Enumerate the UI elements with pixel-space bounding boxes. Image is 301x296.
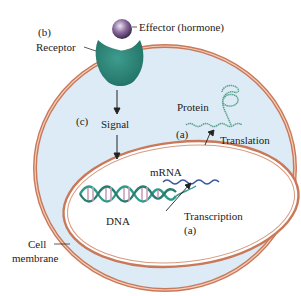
signal-label: Signal xyxy=(101,118,129,130)
effector-label: Effector (hormone) xyxy=(139,21,224,33)
protein-label: Protein xyxy=(177,101,209,113)
label-a-transcription: (a) xyxy=(184,224,196,236)
label-b: (b) xyxy=(38,26,51,38)
receptor-label: Receptor xyxy=(36,41,76,53)
translation-label: Translation xyxy=(220,134,270,146)
cell-label: Cell xyxy=(28,238,46,250)
membrane-label: membrane xyxy=(12,252,58,264)
transcription-label: Transcription xyxy=(184,210,243,222)
dna-label: DNA xyxy=(106,215,130,227)
label-c: (c) xyxy=(76,115,88,127)
effector-hormone-icon xyxy=(112,19,132,39)
label-a-translation: (a) xyxy=(176,128,188,140)
mrna-label: mRNA xyxy=(150,166,182,178)
